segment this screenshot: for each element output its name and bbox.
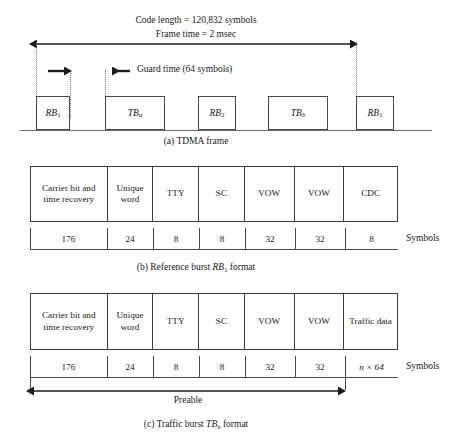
caption-panel-c: (c) Traffic burst TBb format: [144, 419, 248, 430]
guard-time-label: Guard time (64 symbols): [137, 65, 232, 75]
burst-label-rb2: RB2: [199, 108, 235, 119]
field-tty: TTY: [153, 167, 199, 221]
guard-time-arrow-left: [48, 66, 72, 76]
field-vow-1-c: VOW: [245, 294, 295, 349]
leader-guard-left: [70, 70, 71, 118]
reference-burst-symbol-row: 176 24 8 8 32 32 8: [30, 228, 398, 250]
burst-box-rb2: RB2: [198, 96, 236, 130]
field-tty-c: TTY: [153, 294, 199, 349]
field-cdc: CDC: [344, 167, 397, 221]
symbols-unit-label-c: Symbols: [406, 362, 439, 372]
caption-b-prefix: (b) Reference burst: [137, 262, 213, 272]
symbols-cdc: 8: [345, 228, 398, 249]
caption-b-italic: RB: [213, 262, 225, 272]
code-length-label: Code length = 120,832 symbols: [135, 16, 256, 26]
caption-b-suffix: format: [227, 262, 255, 272]
burst-box-rb1-left: RB1: [36, 96, 70, 130]
symbols-tty: 8: [153, 228, 199, 249]
field-carrier-recovery-c: Carrier bit and time recovery: [31, 294, 108, 349]
traffic-burst-symbol-row: 176 24 8 8 32 32 n × 64: [30, 356, 398, 378]
reference-burst-table: Carrier bit and time recovery Unique wor…: [30, 166, 398, 222]
caption-c-prefix: (c) Traffic burst: [144, 419, 206, 429]
symbols-sc: 8: [199, 228, 245, 249]
field-vow-1: VOW: [245, 167, 295, 221]
field-traffic-data: Traffic data: [344, 294, 397, 349]
field-unique-word: Unique word: [108, 167, 154, 221]
burst-label-rb1-right: RB1: [357, 108, 393, 119]
caption-panel-b: (b) Reference burst RB1 format: [137, 262, 255, 273]
caption-c-suffix: format: [221, 419, 249, 429]
burst-label-rb1-left: RB1: [37, 108, 69, 119]
symbols-sc-c: 8: [199, 356, 245, 377]
symbols-unique-word-c: 24: [107, 356, 153, 377]
burst-box-tbb: TBb: [268, 96, 328, 130]
caption-panel-a: (a) TDMA frame: [164, 136, 229, 146]
symbols-vow-1-c: 32: [245, 356, 295, 377]
burst-box-tba: TBa: [105, 96, 165, 130]
burst-label-tbb: TBb: [269, 108, 327, 119]
guard-time-arrow-right: [104, 66, 136, 76]
field-vow-2: VOW: [295, 167, 345, 221]
symbols-vow-2-c: 32: [295, 356, 345, 377]
tdma-frame-figure: Code length = 120,832 symbols Frame time…: [0, 0, 455, 443]
field-sc-c: SC: [199, 294, 245, 349]
frame-time-arrow: [30, 38, 365, 50]
traffic-burst-table: Carrier bit and time recovery Unique wor…: [30, 293, 398, 350]
symbols-carrier-recovery-c: 176: [30, 356, 107, 377]
burst-label-tba: TBa: [106, 108, 164, 119]
caption-c-italic: TB: [206, 419, 217, 429]
field-unique-word-c: Unique word: [108, 294, 154, 349]
symbols-traffic-data: n × 64: [345, 356, 398, 377]
field-carrier-recovery: Carrier bit and time recovery: [31, 167, 108, 221]
preamble-label: Preable: [174, 396, 203, 406]
frame-baseline: [20, 130, 432, 131]
symbols-unique-word: 24: [107, 228, 153, 249]
burst-box-rb1-right: RB1: [356, 96, 394, 130]
symbols-vow-1: 32: [245, 228, 295, 249]
field-vow-2-c: VOW: [295, 294, 345, 349]
symbols-vow-2: 32: [295, 228, 345, 249]
symbols-unit-label-b: Symbols: [406, 234, 439, 244]
symbols-tty-c: 8: [153, 356, 199, 377]
symbols-carrier-recovery: 176: [30, 228, 107, 249]
field-sc: SC: [199, 167, 245, 221]
